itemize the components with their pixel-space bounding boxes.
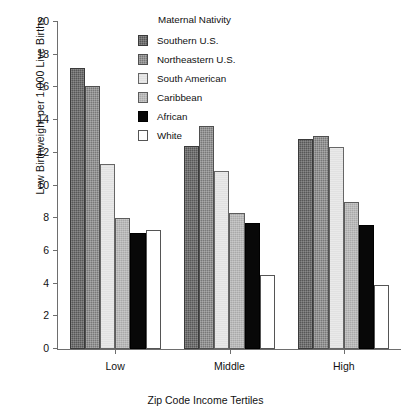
y-tick: 12 xyxy=(53,152,58,153)
y-tick-label: 10 xyxy=(37,179,49,191)
legend-item: Caribbean xyxy=(138,88,288,107)
x-tick-label: Middle xyxy=(214,360,245,372)
y-tick: 16 xyxy=(53,86,58,87)
legend-item-label: White xyxy=(157,131,182,141)
legend-swatch-icon xyxy=(138,35,148,46)
y-tick: 4 xyxy=(53,283,58,284)
y-tick-label: 4 xyxy=(43,277,49,289)
legend-swatch-icon xyxy=(138,111,148,122)
x-tick xyxy=(344,349,345,354)
y-tick-label: 18 xyxy=(37,48,49,60)
legend-title: Maternal Nativity xyxy=(158,14,288,25)
bar-chart-figure: Low Birthweight per 1,000 Live Births 02… xyxy=(0,0,411,416)
bar xyxy=(100,164,115,349)
y-tick-label: 14 xyxy=(37,113,49,125)
y-tick: 20 xyxy=(53,21,58,22)
legend-item-label: African xyxy=(157,112,188,122)
bar xyxy=(374,285,389,349)
legend-swatch-icon xyxy=(138,130,148,141)
legend-item-label: Caribbean xyxy=(157,93,202,103)
legend-swatch-icon xyxy=(138,54,148,65)
x-axis-title: Zip Code Income Tertiles xyxy=(0,394,411,406)
y-tick-label: 2 xyxy=(43,309,49,321)
y-tick: 6 xyxy=(53,250,58,251)
bar xyxy=(214,171,229,349)
bar xyxy=(146,230,161,349)
bar xyxy=(199,126,214,349)
bar xyxy=(260,275,275,349)
bar xyxy=(344,202,359,349)
y-tick-label: 12 xyxy=(37,146,49,158)
legend-item: African xyxy=(138,107,288,126)
legend-item: South American xyxy=(138,69,288,88)
bar xyxy=(313,136,328,349)
bar xyxy=(85,86,100,349)
y-tick-label: 16 xyxy=(37,80,49,92)
bar xyxy=(298,139,313,349)
bar xyxy=(245,223,260,349)
bar xyxy=(70,68,85,349)
bar xyxy=(184,146,199,349)
y-tick: 8 xyxy=(53,217,58,218)
y-tick: 14 xyxy=(53,119,58,120)
bar xyxy=(130,233,145,349)
y-tick-label: 8 xyxy=(43,211,49,223)
legend-swatch-icon xyxy=(138,92,148,103)
bar xyxy=(115,218,130,349)
x-tick xyxy=(230,349,231,354)
y-tick: 0 xyxy=(53,348,58,349)
y-tick-label: 20 xyxy=(37,15,49,27)
x-tick-label: High xyxy=(333,360,355,372)
bar xyxy=(359,225,374,349)
y-tick: 18 xyxy=(53,54,58,55)
y-tick: 2 xyxy=(53,315,58,316)
legend-swatch-icon xyxy=(138,73,148,84)
legend-item: Southern U.S. xyxy=(138,31,288,50)
y-tick-label: 6 xyxy=(43,244,49,256)
bar-group-high xyxy=(298,22,389,349)
x-tick xyxy=(115,349,116,354)
legend-item: Northeastern U.S. xyxy=(138,50,288,69)
legend-item-label: Southern U.S. xyxy=(157,36,219,46)
x-tick-label: Low xyxy=(106,360,125,372)
y-tick: 10 xyxy=(53,185,58,186)
legend-item-label: Northeastern U.S. xyxy=(157,55,235,65)
bar xyxy=(329,147,344,349)
y-tick-label: 0 xyxy=(43,342,49,354)
bar xyxy=(229,213,244,349)
legend-item-label: South American xyxy=(157,74,226,84)
